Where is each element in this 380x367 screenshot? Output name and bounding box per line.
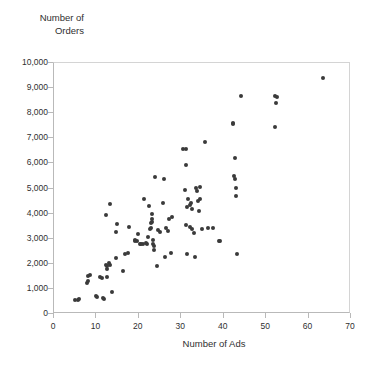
data-point [235, 252, 239, 256]
data-point [183, 188, 187, 192]
data-point [321, 76, 325, 80]
data-point [234, 194, 238, 198]
y-tick-label: 3,000 [4, 234, 48, 243]
data-point [198, 185, 202, 189]
data-point [114, 256, 118, 260]
data-point [163, 255, 167, 259]
data-point [88, 273, 92, 277]
data-point [147, 204, 151, 208]
data-point [170, 215, 174, 219]
data-point [136, 232, 140, 236]
data-point [190, 207, 194, 211]
data-point [142, 197, 146, 201]
x-tick-mark [180, 313, 181, 318]
data-point [114, 230, 118, 234]
data-point [169, 251, 173, 255]
y-tick-label: 9,000 [4, 83, 48, 92]
data-point [234, 186, 238, 190]
data-point [102, 297, 106, 301]
y-tick-label: 1,000 [4, 284, 48, 293]
data-point [149, 226, 153, 230]
data-point [198, 197, 202, 201]
x-tick-label: 10 [80, 322, 110, 331]
data-point [195, 189, 199, 193]
data-point-layer [54, 63, 349, 312]
data-point [189, 201, 193, 205]
data-point [152, 248, 156, 252]
x-axis-title-text: Number of Ads [183, 338, 246, 350]
data-point [200, 227, 204, 231]
x-tick-mark [350, 313, 351, 318]
x-tick-label: 20 [123, 322, 153, 331]
scatter-chart-figure: Number of Orders 01,0002,0003,0004,0005,… [0, 0, 380, 367]
y-tick-label: 4,000 [4, 209, 48, 218]
x-tick-label: 60 [293, 322, 323, 331]
data-point [150, 212, 154, 216]
x-tick-label: 70 [335, 322, 365, 331]
data-point [166, 229, 170, 233]
x-tick-mark [265, 313, 266, 318]
y-tick-label: 5,000 [4, 184, 48, 193]
data-point [239, 94, 243, 98]
data-point [233, 156, 237, 160]
y-tick-label: 10,000 [4, 58, 48, 67]
data-point [218, 239, 222, 243]
data-point [155, 264, 159, 268]
data-point [145, 242, 149, 246]
data-point [158, 230, 162, 234]
y-tick-label: 6,000 [4, 158, 48, 167]
data-point [206, 226, 210, 230]
data-point [184, 163, 188, 167]
data-point [185, 252, 189, 256]
x-tick-label: 50 [250, 322, 280, 331]
x-tick-mark [308, 313, 309, 318]
data-point [86, 279, 90, 283]
data-point [115, 222, 119, 226]
x-tick-label: 0 [38, 322, 68, 331]
data-point [152, 244, 156, 248]
data-point [146, 235, 150, 239]
y-tick-label: 7,000 [4, 133, 48, 142]
y-tick-label: 0 [4, 309, 48, 318]
data-point [274, 101, 278, 105]
y-tick-label: 2,000 [4, 259, 48, 268]
y-axis-title: Number of Orders [6, 12, 84, 37]
data-point [233, 177, 237, 181]
data-point [110, 290, 114, 294]
data-point [184, 147, 188, 151]
x-tick-label: 40 [208, 322, 238, 331]
data-point [192, 231, 196, 235]
data-point [121, 269, 125, 273]
data-point [211, 226, 215, 230]
data-point [197, 209, 201, 213]
data-point [231, 122, 235, 126]
data-point [104, 213, 108, 217]
x-tick-mark [138, 313, 139, 318]
x-tick-mark [53, 313, 54, 318]
data-point [184, 223, 188, 227]
data-point [95, 295, 99, 299]
y-tick-label: 8,000 [4, 108, 48, 117]
x-tick-mark [223, 313, 224, 318]
data-point [108, 202, 112, 206]
data-point [193, 255, 197, 259]
data-point [153, 175, 157, 179]
x-tick-mark [95, 313, 96, 318]
data-point [100, 276, 104, 280]
data-point [161, 201, 165, 205]
data-point [203, 140, 207, 144]
data-point [275, 95, 279, 99]
x-axis-title: Number of Ads [0, 338, 380, 350]
data-point [127, 225, 131, 229]
data-point [77, 297, 81, 301]
plot-area [53, 62, 350, 313]
data-point [126, 251, 130, 255]
data-point [273, 125, 277, 129]
data-point [105, 267, 109, 271]
data-point [105, 275, 109, 279]
data-point [162, 177, 166, 181]
data-point [108, 263, 112, 267]
x-tick-label: 30 [165, 322, 195, 331]
